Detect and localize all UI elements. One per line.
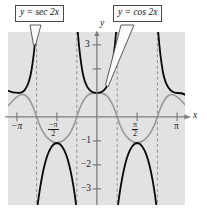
callout-sec-2x: y = sec 2x bbox=[15, 5, 64, 22]
callout-cos-text: y = cos 2x bbox=[118, 7, 157, 17]
x-axis-label: x bbox=[193, 111, 197, 121]
y-tick-label-3: 3 bbox=[85, 40, 90, 50]
x-tick-label-pi: π bbox=[174, 122, 179, 132]
fraction-numerator: −π bbox=[48, 121, 59, 129]
fraction-numerator: π bbox=[132, 121, 138, 129]
y-tick-label-neg-2: −2 bbox=[81, 160, 91, 170]
x-axis-arrowhead bbox=[184, 114, 190, 119]
fraction-denominator: 2 bbox=[48, 129, 59, 138]
x-tick-label-pi-2: π 2 bbox=[132, 121, 138, 138]
fraction-denominator: 2 bbox=[132, 129, 138, 138]
x-tick-label-neg-pi: −π bbox=[11, 122, 22, 132]
fraction-pi-2: π 2 bbox=[132, 121, 138, 138]
callout-sec-text: y = sec 2x bbox=[20, 7, 59, 17]
trig-graph-figure bbox=[0, 0, 207, 212]
y-axis-label: y bbox=[100, 19, 104, 29]
fraction-neg-pi-2: −π 2 bbox=[48, 121, 59, 138]
x-tick-label-neg-pi-2: −π 2 bbox=[48, 121, 59, 138]
y-tick-label-neg-1: −1 bbox=[81, 136, 91, 146]
callout-cos-2x: y = cos 2x bbox=[113, 5, 162, 22]
y-tick-label-neg-3: −3 bbox=[81, 184, 91, 194]
